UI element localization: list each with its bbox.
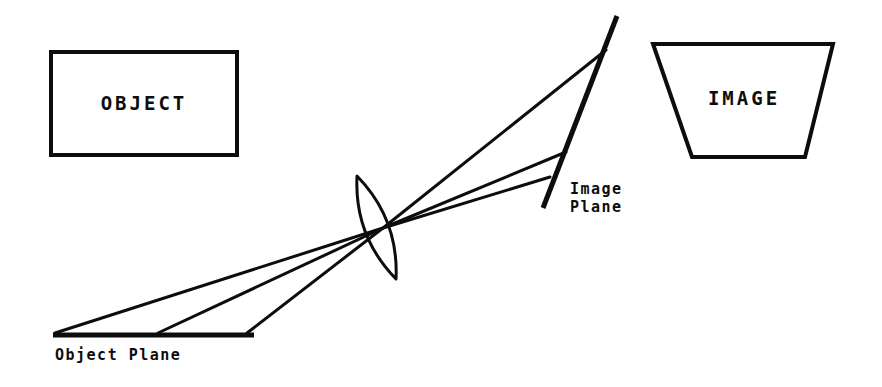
optical-diagram: OBJECT IMAGE Object Plane Image Plane [0,0,882,387]
biconvex-lens [357,176,396,279]
image-plane-label-line2: Plane [570,198,623,216]
object-box-label: OBJECT [101,92,188,114]
ray-lower [247,177,550,333]
object-plane-label: Object Plane [55,346,181,364]
diagram-canvas: OBJECT IMAGE Object Plane Image Plane [0,0,882,387]
image-box-label: IMAGE [708,87,780,109]
image-plane-label-line1: Image [570,180,623,198]
